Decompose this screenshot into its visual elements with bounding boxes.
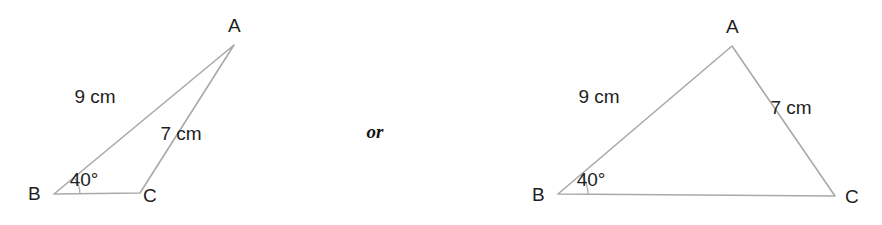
ambiguous-case-triangle-figure: A B C 9 cm 7 cm 40° or A B C 9 cm 7 cm 4…	[0, 0, 882, 225]
angle-label-b-acute: 40°	[577, 169, 606, 190]
vertex-label-b-acute: B	[532, 184, 545, 205]
vertex-label-a-obtuse: A	[228, 15, 241, 36]
vertex-label-c-obtuse: C	[143, 185, 157, 206]
angle-label-b-obtuse: 40°	[70, 169, 99, 190]
side-label-ac-obtuse: 7 cm	[160, 123, 201, 144]
triangle-acute-solution: A B C 9 cm 7 cm 40°	[532, 16, 859, 207]
side-label-ab-obtuse: 9 cm	[74, 86, 115, 107]
side-label-ab-acute: 9 cm	[578, 86, 619, 107]
side-label-ac-acute: 7 cm	[770, 97, 811, 118]
vertex-label-b-obtuse: B	[28, 183, 41, 204]
vertex-label-a-acute: A	[726, 16, 739, 37]
conjunction-or: or	[367, 121, 385, 142]
vertex-label-c-acute: C	[845, 186, 859, 207]
triangle-obtuse-solution: A B C 9 cm 7 cm 40°	[28, 15, 241, 206]
